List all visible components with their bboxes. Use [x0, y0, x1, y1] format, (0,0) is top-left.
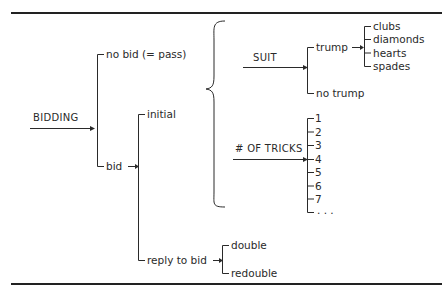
- initial-brace: [206, 21, 225, 207]
- label-reply-to-bid: reply to bid: [147, 254, 207, 266]
- tricks-bracket: [308, 119, 315, 213]
- label-no-bid: no bid (= pass): [106, 48, 186, 60]
- label-spades: spades: [373, 60, 410, 72]
- label-trick-4: 4: [315, 153, 322, 165]
- root-label-bidding: BIDDING: [33, 112, 79, 124]
- label-double: double: [231, 239, 267, 251]
- label-suit: SUIT: [253, 52, 277, 64]
- label-initial: initial: [147, 108, 176, 120]
- label-number-of-tricks: # OF TRICKS: [235, 143, 303, 155]
- label-hearts: hearts: [373, 47, 406, 59]
- label-trick-6: 6: [315, 180, 322, 192]
- label-trick-1: 1: [315, 112, 322, 124]
- arrowhead-icon: [90, 126, 95, 131]
- bid-bracket: [139, 115, 146, 261]
- reply-bracket: [223, 246, 230, 274]
- label-trick-2: 2: [315, 126, 322, 138]
- suits-bracket: [365, 27, 372, 67]
- label-clubs: clubs: [373, 20, 400, 32]
- label-trick-5: 5: [315, 166, 322, 178]
- suit-bracket: [308, 48, 315, 94]
- label-diamonds: diamonds: [373, 33, 424, 45]
- label-trump: trump: [316, 41, 348, 53]
- bidding-bracket: [98, 55, 105, 167]
- label-redouble: redouble: [231, 267, 277, 279]
- label-trick-3: 3: [315, 139, 322, 151]
- label-trick-more: . . .: [317, 204, 334, 216]
- arrowhead-icon: [360, 45, 364, 50]
- label-bid: bid: [106, 160, 122, 172]
- label-no-trump: no trump: [316, 87, 364, 99]
